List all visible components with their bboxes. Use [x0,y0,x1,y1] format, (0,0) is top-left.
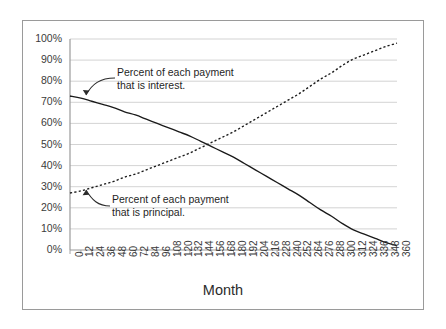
x-axis-label-204: 204 [260,240,270,257]
interest-annotation-leader-icon [86,78,115,95]
x-axis-label-348: 348 [391,240,401,257]
interest-annotation-arrowhead-icon [83,90,90,95]
interest-annotation-line2: that is interest. [117,79,234,92]
chart-plot-canvas [0,0,446,329]
x-axis-label-312: 312 [358,240,368,257]
y-axis-label-80%: 80% [20,75,62,85]
interest-annotation: Percent of each payment that is interest… [117,66,234,92]
x-axis-label-156: 156 [216,240,226,257]
x-axis-label-84: 84 [151,246,161,257]
x-axis-label-240: 240 [293,240,303,257]
y-axis-label-30%: 30% [20,181,62,191]
x-axis-label-180: 180 [238,240,248,257]
x-axis-title: Month [0,282,446,298]
y-axis-label-90%: 90% [20,54,62,64]
x-axis-label-72: 72 [140,246,150,257]
y-axis-label-20%: 20% [20,202,62,212]
x-axis-label-120: 120 [184,240,194,257]
y-axis-label-0%: 0% [20,244,62,254]
y-axis-label-50%: 50% [20,139,62,149]
interest-series-line [70,96,397,246]
x-axis-label-264: 264 [314,240,324,257]
x-axis-label-192: 192 [249,240,259,257]
x-axis-label-60: 60 [129,246,139,257]
x-axis-label-300: 300 [347,240,357,257]
x-axis-label-36: 36 [107,246,117,257]
x-axis-label-12: 12 [85,246,95,257]
x-axis-label-252: 252 [303,240,313,257]
x-axis-label-276: 276 [325,240,335,257]
x-axis-label-336: 336 [380,240,390,257]
y-axis-label-40%: 40% [20,160,62,170]
x-axis-label-228: 228 [282,240,292,257]
x-axis-label-24: 24 [96,246,106,257]
x-axis-label-360: 360 [402,240,412,257]
x-axis-label-216: 216 [271,240,281,257]
x-axis-label-108: 108 [173,240,183,257]
y-axis-label-70%: 70% [20,96,62,106]
x-axis-label-288: 288 [336,240,346,257]
x-axis-label-132: 132 [194,240,204,257]
principal-annotation: Percent of each payment that is principa… [112,193,229,219]
x-axis-label-48: 48 [118,246,128,257]
x-axis-label-168: 168 [227,240,237,257]
principal-annotation-line1: Percent of each payment [112,193,229,206]
principal-annotation-leader-icon [86,190,110,206]
x-axis-label-144: 144 [205,240,215,257]
y-axis-label-10%: 10% [20,223,62,233]
y-axis-label-100%: 100% [20,33,62,43]
interest-annotation-line1: Percent of each payment [117,66,234,79]
x-axis-label-0: 0 [75,251,85,257]
y-axis-label-60%: 60% [20,117,62,127]
principal-annotation-line2: that is principal. [112,206,229,219]
x-axis-label-324: 324 [369,240,379,257]
x-axis-label-96: 96 [162,246,172,257]
